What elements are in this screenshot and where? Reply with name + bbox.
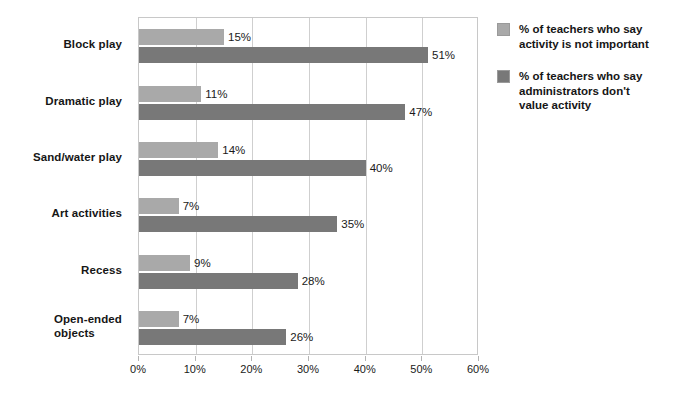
bar-not-important	[139, 198, 179, 214]
category-label: Open-ended objects	[54, 312, 122, 340]
plot-area: 15%51%11%47%14%40%7%35%9%28%7%26%	[138, 17, 478, 355]
gridline-30	[309, 18, 310, 354]
bar-value-label: 51%	[432, 47, 455, 63]
x-tick-mark	[421, 356, 422, 361]
bar-value-label: 7%	[183, 311, 200, 327]
bar-value-label: 47%	[409, 104, 432, 120]
bar-value-label: 40%	[370, 160, 393, 176]
category-label: Block play	[63, 37, 122, 51]
bar-not-important	[139, 311, 179, 327]
x-tick-label: 30%	[297, 363, 319, 375]
x-tick-label: 40%	[354, 363, 376, 375]
bar-value-label: 11%	[205, 86, 227, 102]
category-label: Recess	[81, 263, 122, 277]
gridline-40	[366, 18, 367, 354]
bar-not-important	[139, 255, 190, 271]
bar-admin-no-value	[139, 47, 428, 63]
gridline-20	[252, 18, 253, 354]
category-axis: Block playDramatic playSand/water playAr…	[0, 17, 130, 355]
x-tick-label: 20%	[240, 363, 262, 375]
bar-value-label: 14%	[222, 142, 245, 158]
x-tick-mark	[138, 356, 139, 361]
light-gray-swatch	[497, 23, 510, 36]
legend-item: % of teachers who say activity is not im…	[497, 22, 669, 51]
bar-chart: Block playDramatic playSand/water playAr…	[0, 0, 673, 395]
dark-gray-swatch	[497, 70, 510, 83]
bar-value-label: 35%	[341, 216, 364, 232]
bar-value-label: 15%	[228, 29, 251, 45]
category-label: Dramatic play	[45, 94, 122, 108]
x-tick-label: 0%	[130, 363, 146, 375]
bar-value-label: 26%	[290, 329, 313, 345]
category-label: Sand/water play	[33, 150, 122, 164]
legend-label: % of teachers who say administrators don…	[519, 69, 642, 113]
bar-value-label: 9%	[194, 255, 211, 271]
x-tick-mark	[251, 356, 252, 361]
x-axis: 0%10%20%30%40%50%60%	[138, 356, 478, 386]
bar-admin-no-value	[139, 160, 366, 176]
chart-legend: % of teachers who say activity is not im…	[497, 22, 669, 131]
x-tick-mark	[478, 356, 479, 361]
x-tick-mark	[308, 356, 309, 361]
category-label: Art activities	[52, 206, 122, 220]
bar-admin-no-value	[139, 273, 298, 289]
bar-value-label: 7%	[183, 198, 200, 214]
bar-admin-no-value	[139, 216, 337, 232]
bar-not-important	[139, 29, 224, 45]
bar-not-important	[139, 142, 218, 158]
x-tick-label: 10%	[184, 363, 206, 375]
legend-label: % of teachers who say activity is not im…	[519, 22, 649, 51]
x-tick-label: 60%	[467, 363, 489, 375]
gridline-50	[422, 18, 423, 354]
bar-admin-no-value	[139, 104, 405, 120]
bar-not-important	[139, 86, 201, 102]
bar-admin-no-value	[139, 329, 286, 345]
x-tick-label: 50%	[410, 363, 432, 375]
bar-value-label: 28%	[302, 273, 325, 289]
x-tick-mark	[365, 356, 366, 361]
legend-item: % of teachers who say administrators don…	[497, 69, 669, 113]
x-tick-mark	[195, 356, 196, 361]
gridline-10	[196, 18, 197, 354]
